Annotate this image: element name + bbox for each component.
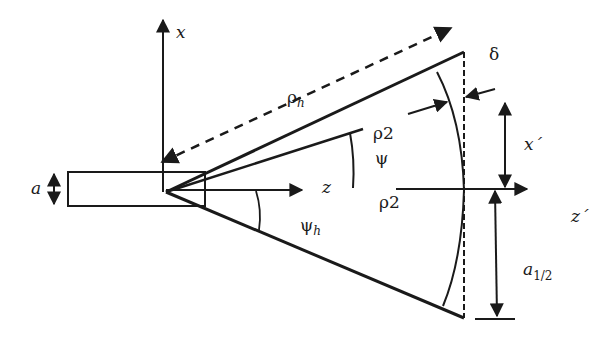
label-psi: ψ [375, 148, 388, 168]
horn-top-wall [166, 52, 464, 192]
label-rho-h: ρh [287, 87, 305, 110]
psi-arc [350, 133, 354, 188]
label-z-prime: z´ [570, 206, 589, 226]
horn-diagram: x z ρh ρ2 ψ ρ2 ψh δ x´ z´ a1/2 a [0, 0, 614, 344]
horn-bottom-wall [166, 192, 464, 318]
label-z: z [321, 177, 332, 197]
label-delta: δ [489, 44, 499, 64]
psi-h-arc [256, 191, 260, 230]
label-rho2-top: ρ2 [373, 123, 394, 143]
rho2-line [166, 129, 363, 192]
rho-h-dashed [162, 28, 451, 162]
label-x: x [176, 22, 186, 42]
label-a: a [31, 178, 41, 198]
label-psi-h: ψh [300, 215, 321, 238]
label-x-prime: x´ [524, 134, 543, 154]
label-rho2-bottom: ρ2 [379, 192, 400, 212]
label-a-half: a1/2 [523, 259, 552, 283]
a-half-arrow [495, 191, 497, 316]
delta-arrow-left [408, 102, 447, 114]
delta-arrow-right [466, 89, 495, 97]
